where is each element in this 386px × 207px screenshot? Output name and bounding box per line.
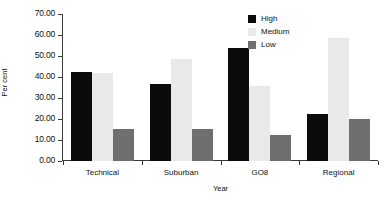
bar-low xyxy=(192,129,213,161)
bar-low xyxy=(270,135,291,161)
bar-group xyxy=(63,14,142,161)
y-axis-title: Per cent xyxy=(0,69,9,97)
bar-high xyxy=(307,114,328,161)
y-tick-label: 50.00 xyxy=(35,50,55,60)
x-tick-label: Regional xyxy=(299,168,378,177)
legend-swatch-icon xyxy=(248,41,256,49)
x-tick-mark xyxy=(142,161,143,165)
y-tick-label: 10.00 xyxy=(35,134,55,144)
x-tick-label: Technical xyxy=(63,168,142,177)
bar-high xyxy=(150,84,171,161)
y-tick-label: 20.00 xyxy=(35,113,55,123)
legend-item-low[interactable]: Low xyxy=(248,38,289,51)
bar-group xyxy=(142,14,221,161)
legend-swatch-icon xyxy=(248,28,256,36)
y-tick-label: 0.00 xyxy=(39,155,55,165)
x-tick-mark xyxy=(378,161,379,165)
y-tick-label: 70.00 xyxy=(35,8,55,18)
x-tick-mark xyxy=(299,161,300,165)
bar-low xyxy=(349,119,370,161)
y-tick-label: 60.00 xyxy=(35,29,55,39)
bar-high xyxy=(71,72,92,161)
legend-item-medium[interactable]: Medium xyxy=(248,25,289,38)
bar-medium xyxy=(92,73,113,161)
bar-low xyxy=(113,129,134,161)
bar-high xyxy=(228,48,249,161)
bar-chart: 0.0010.0020.0030.0040.0050.0060.0070.00 … xyxy=(0,0,386,207)
x-tick-mark xyxy=(221,161,222,165)
x-tick-mark xyxy=(63,161,64,165)
legend-label: Low xyxy=(261,40,276,49)
x-axis-labels: TechnicalSuburbanGO8Regional xyxy=(63,168,378,177)
bar-groups xyxy=(63,14,378,161)
x-axis-ticks xyxy=(63,161,378,166)
legend-item-high[interactable]: High xyxy=(248,12,289,25)
y-tick-label: 40.00 xyxy=(35,71,55,81)
y-tick-mark xyxy=(58,161,62,162)
x-axis-title: Year xyxy=(63,184,378,193)
x-tick-label: GO8 xyxy=(221,168,300,177)
x-tick-label: Suburban xyxy=(142,168,221,177)
legend: HighMediumLow xyxy=(248,12,289,51)
bar-medium xyxy=(249,86,270,161)
y-tick-label: 30.00 xyxy=(35,92,55,102)
legend-label: High xyxy=(261,14,277,23)
bar-group xyxy=(299,14,378,161)
bar-medium xyxy=(171,59,192,161)
legend-label: Medium xyxy=(261,27,289,36)
bar-medium xyxy=(328,38,349,161)
legend-swatch-icon xyxy=(248,15,256,23)
